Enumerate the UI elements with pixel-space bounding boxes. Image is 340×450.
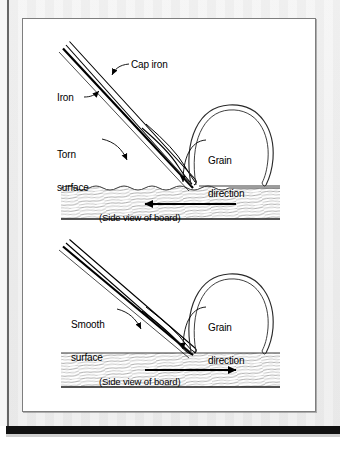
cap-iron-nose <box>142 128 192 184</box>
label-iron: Iron <box>57 92 74 103</box>
label-torn-surface-line2: surface <box>57 182 89 193</box>
leader-cap-iron <box>112 64 129 75</box>
page-bottom-black-bar <box>6 426 340 434</box>
caption-side-view-bottom: (Side view of board) <box>99 376 180 387</box>
caption-side-view-top: (Side view of board) <box>99 212 180 223</box>
leader-torn-surface <box>102 139 127 160</box>
page-root: Cap iron Iron Torn surface Grain directi… <box>0 0 340 450</box>
label-grain-direction-bottom: Grain direction <box>208 300 244 388</box>
leaders-top <box>84 64 206 182</box>
label-torn-surface-line1: Torn <box>57 149 89 160</box>
label-smooth-surface-line1: Smooth <box>71 319 105 330</box>
label-smooth-surface-line2: surface <box>71 352 105 363</box>
label-torn-surface: Torn surface <box>57 127 89 215</box>
label-cap-iron: Cap iron <box>131 59 168 70</box>
label-grain-direction-top-line2: direction <box>208 188 244 199</box>
page-bottom-bar-shadow <box>6 434 340 437</box>
label-grain-direction-top: Grain direction <box>208 133 244 221</box>
leader-smooth-surface <box>117 309 141 329</box>
illustration-panel: Cap iron Iron Torn surface Grain directi… <box>22 18 316 412</box>
page-left-margin <box>0 0 6 426</box>
diagram-against-grain <box>59 42 280 220</box>
illustration-canvas: Cap iron Iron Torn surface Grain directi… <box>23 19 315 411</box>
label-grain-direction-bottom-line2: direction <box>208 355 244 366</box>
page-left-edge-line <box>7 0 9 426</box>
label-grain-direction-bottom-line1: Grain <box>208 322 244 333</box>
label-smooth-surface: Smooth surface <box>71 297 105 385</box>
label-grain-direction-top-line1: Grain <box>208 155 244 166</box>
